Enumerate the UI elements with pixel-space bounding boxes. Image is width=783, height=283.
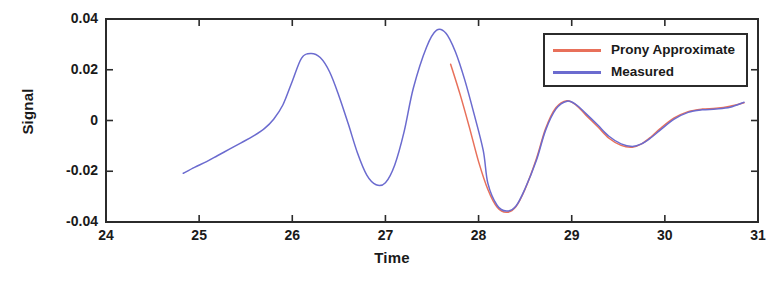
y-tick-label: 0 [38,112,98,128]
chart-figure: Signal Time 0.040.020-0.02-0.04 24252627… [0,0,783,283]
y-tick-label: 0.02 [38,61,98,77]
legend-label-prony: Prony Approximate [611,43,735,57]
legend-color-swatch-prony [553,49,601,52]
legend-color-swatch-measured [553,71,601,74]
x-tick-label: 30 [645,227,685,243]
chart-legend: Prony Approximate Measured [543,33,748,87]
x-tick-label: 24 [86,227,126,243]
x-tick-label: 29 [552,227,592,243]
y-tick-label: -0.02 [38,162,98,178]
legend-label-measured: Measured [611,65,674,79]
legend-item-prony-approximate: Prony Approximate [553,39,735,61]
x-tick-label: 31 [738,227,778,243]
x-axis-label: Time [352,249,432,266]
x-tick-label: 25 [179,227,219,243]
legend-item-measured: Measured [553,61,674,83]
y-tick-label: 0.04 [38,10,98,26]
x-tick-label: 28 [459,227,499,243]
y-axis-label: Signal [19,72,36,152]
x-tick-label: 26 [272,227,312,243]
x-tick-label: 27 [365,227,405,243]
